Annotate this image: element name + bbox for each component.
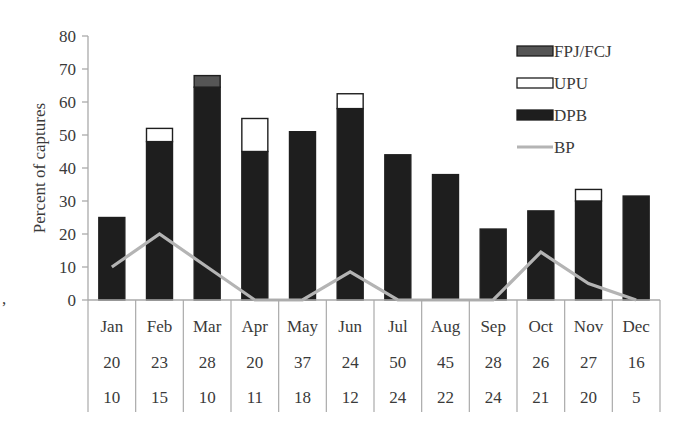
y-tick-label: 80	[59, 27, 76, 46]
table-cell: 11	[247, 388, 263, 407]
table-cell: 18	[294, 388, 311, 407]
legend-label-upu: UPU	[554, 74, 588, 93]
bar-segment-upu	[242, 119, 268, 152]
stacked-bar-chart: 01020304050607080 JanFebMarAprMayJunJulA…	[0, 0, 680, 429]
table-cell: 10	[199, 388, 216, 407]
y-axis-title: Percent of captures	[30, 103, 49, 233]
bar-segment-upu	[576, 189, 602, 201]
x-category-label: Nov	[574, 317, 604, 336]
legend-label-bp: BP	[554, 138, 575, 157]
x-category-label: Jul	[388, 317, 408, 336]
table-cell: 22	[437, 388, 454, 407]
table-cell: 20	[580, 388, 597, 407]
x-category-label: Sep	[480, 317, 506, 336]
bp-line	[112, 234, 636, 300]
y-tick-label: 60	[59, 93, 76, 112]
x-category-label: Dec	[622, 317, 650, 336]
table-cell: 28	[199, 353, 216, 372]
y-axis: 01020304050607080	[59, 27, 88, 310]
legend-label-dpb: DPB	[554, 106, 587, 125]
table-cell: 21	[532, 388, 549, 407]
y-tick-label: 10	[59, 258, 76, 277]
bar-segment-upu	[337, 94, 363, 109]
x-axis-table: JanFebMarAprMayJunJulAugSepOctNovDec2023…	[88, 300, 660, 412]
table-cell: 5	[632, 388, 641, 407]
x-category-label: Jan	[100, 317, 123, 336]
bp-line-path	[112, 234, 636, 300]
table-cell: 24	[485, 388, 503, 407]
x-category-label: Jun	[338, 317, 362, 336]
legend-swatch-upu	[517, 78, 553, 88]
bar-segment-dpb	[433, 175, 459, 300]
y-tick-label: 70	[59, 60, 76, 79]
x-category-label: Apr	[242, 317, 269, 336]
table-cell: 15	[151, 388, 168, 407]
stray-comma: ,	[2, 289, 6, 308]
y-tick-label: 50	[59, 126, 76, 145]
table-cell: 12	[342, 388, 359, 407]
bar-segment-dpb	[290, 132, 316, 300]
y-tick-label: 0	[68, 291, 77, 310]
bar-segment-fpjfcj	[194, 76, 220, 88]
table-cell: 50	[389, 353, 406, 372]
bar-segment-upu	[147, 128, 173, 141]
legend: FPJ/FCJUPUDPBBP	[517, 42, 612, 157]
x-category-label: Mar	[193, 317, 222, 336]
table-cell: 45	[437, 353, 454, 372]
bar-segment-dpb	[623, 196, 649, 300]
table-cell: 28	[485, 353, 502, 372]
bar-segment-dpb	[147, 142, 173, 300]
bar-segment-dpb	[99, 218, 125, 301]
table-cell: 26	[532, 353, 549, 372]
bar-segment-dpb	[242, 152, 268, 301]
x-category-label: Feb	[147, 317, 173, 336]
x-category-label: Aug	[431, 317, 461, 336]
y-tick-label: 40	[59, 159, 76, 178]
legend-swatch-dpb	[517, 110, 553, 120]
table-cell: 27	[580, 353, 598, 372]
table-cell: 24	[389, 388, 407, 407]
legend-label-fpjfcj: FPJ/FCJ	[554, 42, 612, 61]
table-cell: 20	[246, 353, 263, 372]
table-cell: 24	[342, 353, 360, 372]
table-cell: 16	[628, 353, 645, 372]
x-category-label: May	[287, 317, 319, 336]
x-category-label: Oct	[529, 317, 554, 336]
table-cell: 10	[103, 388, 120, 407]
table-cell: 23	[151, 353, 168, 372]
y-tick-label: 20	[59, 225, 76, 244]
table-cell: 20	[103, 353, 120, 372]
bar-segment-dpb	[528, 211, 554, 300]
bar-segment-dpb	[385, 155, 411, 300]
y-tick-label: 30	[59, 192, 76, 211]
table-cell: 37	[294, 353, 312, 372]
legend-swatch-fpjfcj	[517, 46, 553, 56]
